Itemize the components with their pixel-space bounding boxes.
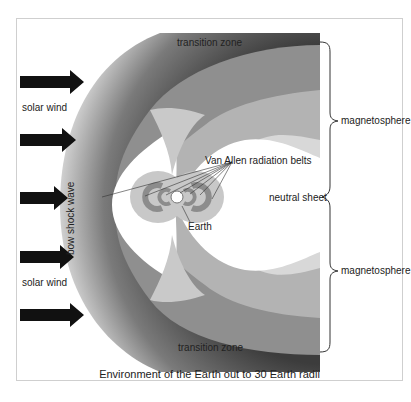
- label-magnetosphere-top: magnetosphere: [341, 115, 411, 126]
- label-solar-wind-bottom: solar wind: [22, 277, 67, 288]
- label-earth: Earth: [188, 221, 212, 232]
- label-van-allen-belts: Van Allen radiation belts: [205, 155, 312, 166]
- arrow-icon: [20, 70, 84, 94]
- arrow-icon: [20, 303, 84, 327]
- label-magnetosphere-bottom: magnetosphere: [341, 265, 411, 276]
- label-bow-shock-wave: bow shock wave: [65, 182, 76, 255]
- label-transition-zone-bottom: transition zone: [178, 342, 243, 353]
- label-transition-zone-top: transition zone: [177, 37, 242, 48]
- diagram-caption: Environment of the Earth out to 30 Earth…: [16, 368, 403, 380]
- label-neutral-sheet: neutral sheet: [269, 192, 327, 203]
- label-solar-wind-top: solar wind: [22, 102, 67, 113]
- earth: [171, 191, 183, 203]
